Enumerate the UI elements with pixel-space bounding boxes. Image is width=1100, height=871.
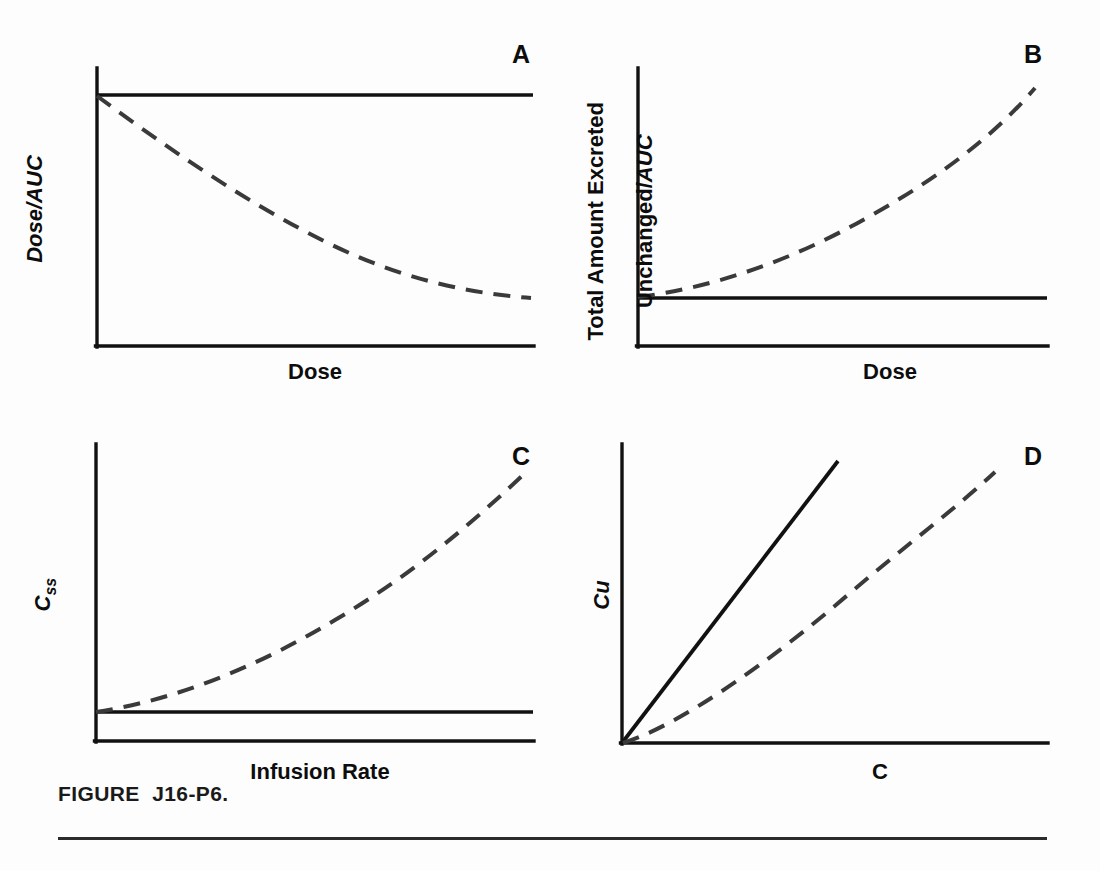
panel-d-dashed-series: [623, 472, 995, 743]
figure-divider-rule: [58, 837, 1047, 840]
panel-c-plot: [0, 400, 560, 800]
panel-b-y-axis-label: Total Amount Excreted Unchanged/AUC: [559, 96, 658, 346]
panel-b-x-axis-label: Dose: [810, 359, 970, 385]
figure-root: A Dose/AUC Dose B Total Amount Excreted …: [0, 0, 1100, 871]
panel-a-x-axis-label: Dose: [235, 359, 395, 385]
panel-b: B Total Amount Excreted Unchanged/AUC Do…: [540, 0, 1100, 400]
panel-b-dashed-series: [638, 88, 1035, 297]
panel-c-y-axis-main: C: [30, 596, 55, 612]
panel-d-plot: [540, 400, 1100, 800]
panel-a-dashed-series: [97, 96, 531, 298]
panel-c-dashed-series: [96, 474, 524, 712]
panel-a-plot: [0, 0, 560, 400]
panel-b-y-axis-line1: Total Amount Excreted: [582, 102, 607, 340]
panel-d: D Cu C: [540, 400, 1100, 800]
panel-a: A Dose/AUC Dose: [0, 0, 560, 400]
panel-d-y-axis-label: Cu: [589, 565, 615, 625]
panel-a-y-axis-label: Dose/AUC: [22, 149, 48, 269]
panel-c-y-axis-label: Css: [30, 565, 59, 625]
panel-a-letter: A: [512, 40, 530, 69]
panel-c-x-axis-label: Infusion Rate: [220, 759, 420, 785]
panel-d-x-axis-label: C: [850, 759, 910, 785]
panel-b-y-axis-line2-italic: AUC: [632, 134, 657, 182]
panel-c-letter: C: [512, 442, 530, 471]
panel-c: C Css Infusion Rate: [0, 400, 560, 800]
panel-b-y-axis-line2-plain: Unchanged/: [632, 182, 657, 308]
panel-b-letter: B: [1024, 40, 1042, 69]
panel-c-y-axis-sub: ss: [42, 578, 59, 596]
figure-caption: FIGURE J16-P6.: [58, 782, 229, 806]
panel-d-solid-series: [622, 461, 838, 743]
panel-d-letter: D: [1024, 442, 1042, 471]
